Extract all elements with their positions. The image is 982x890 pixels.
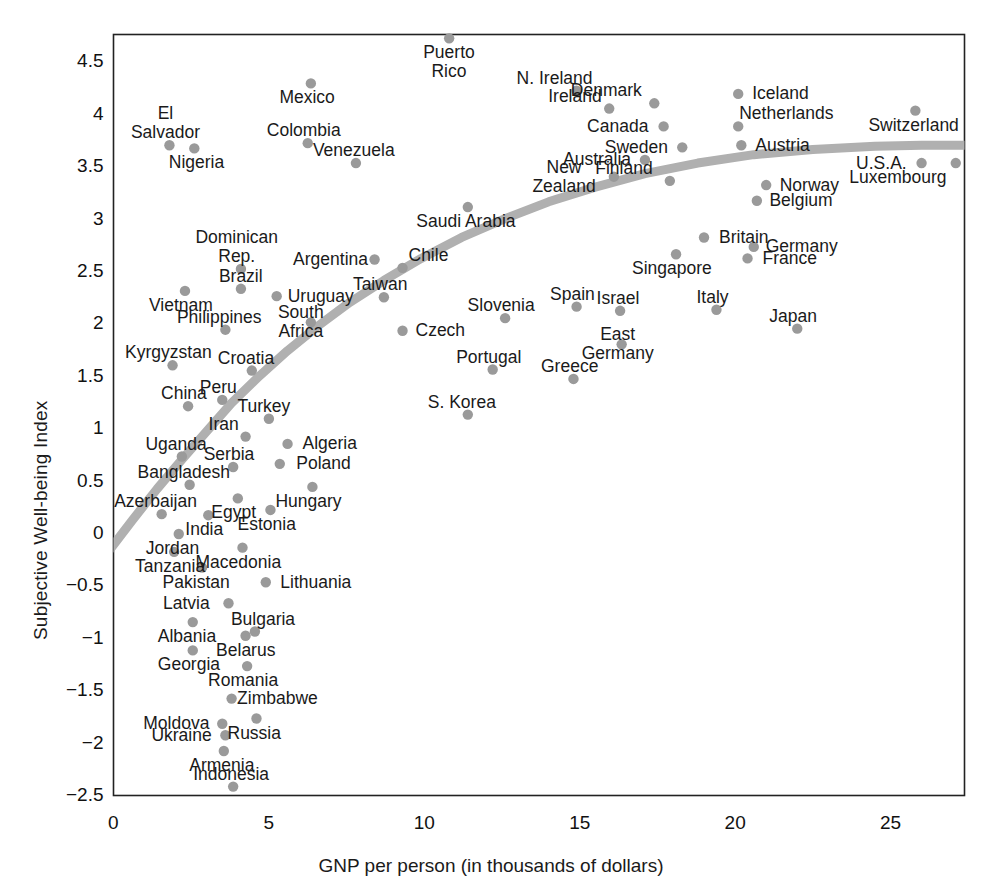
- data-point-label: Switzerland: [868, 116, 958, 135]
- data-point[interactable]: [223, 598, 233, 608]
- data-point-label: New Zealand: [532, 158, 595, 196]
- data-point[interactable]: [699, 232, 709, 242]
- x-tick-label: 25: [880, 812, 901, 834]
- data-point[interactable]: [665, 176, 675, 186]
- data-point-label: Algeria: [303, 434, 357, 453]
- data-point[interactable]: [369, 254, 379, 264]
- data-point-label: Pakistan: [163, 573, 230, 592]
- data-point-label: Lithuania: [280, 573, 351, 592]
- data-point[interactable]: [736, 140, 746, 150]
- data-point[interactable]: [761, 180, 771, 190]
- data-point-label: Bulgaria: [231, 610, 295, 629]
- x-tick-label: 15: [569, 812, 590, 834]
- y-tick-label: −2: [82, 732, 104, 754]
- data-point[interactable]: [271, 291, 281, 301]
- data-point-label: Ukraine: [151, 726, 211, 745]
- data-point-label: El Salvador: [131, 104, 200, 142]
- y-tick-label: 3.5: [77, 155, 103, 177]
- data-point-label: Albania: [158, 627, 216, 646]
- data-point-label: Azerbaijan: [114, 492, 197, 511]
- data-point[interactable]: [752, 196, 762, 206]
- data-point-label: Zimbabwe: [237, 689, 318, 708]
- data-point[interactable]: [226, 693, 236, 703]
- data-point-label: China: [161, 384, 207, 403]
- y-tick-label: 1.5: [77, 365, 103, 387]
- data-point[interactable]: [397, 263, 407, 273]
- data-point-label: Czech: [416, 321, 466, 340]
- data-point-label: Japan: [769, 307, 817, 326]
- data-point-label: Slovenia: [468, 296, 535, 315]
- data-point-label: Puerto Rico: [423, 43, 475, 81]
- y-tick-label: 1: [93, 417, 104, 439]
- data-point-label: Macedonia: [196, 553, 282, 572]
- data-point-label: Singapore: [632, 259, 712, 278]
- x-tick-label: 5: [263, 812, 274, 834]
- y-tick-label: 4.5: [77, 50, 103, 72]
- data-point-label: Uganda: [145, 435, 206, 454]
- data-point-label: Luxembourg: [849, 168, 946, 187]
- data-point[interactable]: [282, 439, 292, 449]
- data-point-label: Poland: [296, 454, 351, 473]
- data-point-label: Spain: [550, 285, 595, 304]
- data-point-label: Dominican Rep.: [195, 228, 278, 266]
- data-point[interactable]: [951, 158, 961, 168]
- x-tick-label: 20: [725, 812, 746, 834]
- y-tick-label: 2: [93, 312, 104, 334]
- data-point[interactable]: [649, 98, 659, 108]
- x-tick-label: 0: [108, 812, 119, 834]
- data-point[interactable]: [397, 326, 407, 336]
- data-point-label: Venezuela: [313, 141, 395, 160]
- data-point-label: Canada: [587, 117, 648, 136]
- data-point-label: Bangladesh: [138, 463, 230, 482]
- data-point-label: India: [185, 520, 223, 539]
- data-point-label: Russia: [228, 724, 282, 743]
- data-point-label: Argentina: [293, 250, 368, 269]
- data-point-label: Portugal: [456, 348, 521, 367]
- data-point[interactable]: [677, 142, 687, 152]
- x-axis-title: GNP per person (in thousands of dollars): [0, 855, 982, 877]
- scatter-chart: −2.5−2−1.5−1−0.500.511.522.533.544.5 051…: [0, 0, 982, 890]
- data-point-label: Israel: [597, 289, 640, 308]
- data-point[interactable]: [733, 89, 743, 99]
- y-tick-label: 2.5: [77, 260, 103, 282]
- y-tick-label: −0.5: [66, 574, 104, 596]
- data-point-label: Croatia: [218, 349, 274, 368]
- data-point-label: Hungary: [275, 492, 341, 511]
- data-point-label: Greece: [541, 357, 598, 376]
- data-point[interactable]: [261, 577, 271, 587]
- y-tick-label: −2.5: [66, 784, 104, 806]
- y-tick-label: 0.5: [77, 470, 103, 492]
- data-point[interactable]: [217, 719, 227, 729]
- data-point-label: Finland: [595, 159, 652, 178]
- data-point-label: Nigeria: [169, 153, 224, 172]
- data-point[interactable]: [604, 103, 614, 113]
- data-point-label: Mexico: [279, 88, 334, 107]
- data-point[interactable]: [742, 253, 752, 263]
- data-point-label: Denmark: [571, 81, 642, 100]
- data-point-label: Italy: [697, 288, 729, 307]
- data-point-label: Taiwan: [353, 275, 407, 294]
- data-point[interactable]: [658, 121, 668, 131]
- data-point-label: Turkey: [237, 397, 290, 416]
- y-tick-label: 0: [93, 522, 104, 544]
- data-point-label: Netherlands: [739, 104, 833, 123]
- y-axis-title: Subjective Well-being Index: [30, 400, 52, 640]
- y-tick-label: 4: [93, 103, 104, 125]
- y-tick-label: −1: [82, 627, 104, 649]
- data-point-label: Brazil: [219, 267, 263, 286]
- data-point-label: Iran: [209, 415, 239, 434]
- data-point-label: Britain: [719, 228, 769, 247]
- data-point-label: South Africa: [278, 303, 324, 341]
- data-point-label: Iceland: [752, 84, 808, 103]
- data-point-label: Belarus: [216, 641, 275, 660]
- data-point[interactable]: [275, 459, 285, 469]
- data-point-label: Estonia: [238, 515, 296, 534]
- data-point[interactable]: [240, 431, 250, 441]
- data-point-label: Saudi Arabia: [416, 212, 515, 231]
- x-tick-label: 10: [414, 812, 435, 834]
- data-point-label: Austria: [755, 136, 809, 155]
- data-point-label: Belgium: [769, 191, 832, 210]
- y-tick-label: 3: [93, 208, 104, 230]
- data-point-label: Indonesia: [193, 765, 269, 784]
- data-point-label: France: [763, 249, 817, 268]
